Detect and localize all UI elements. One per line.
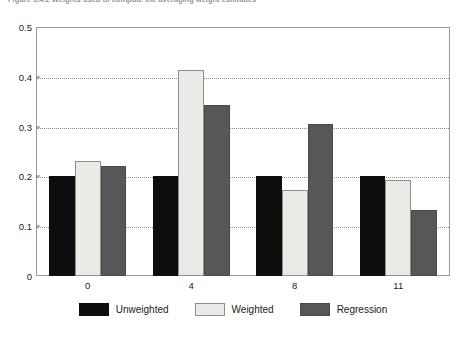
legend-item-regression[interactable]: Regression bbox=[300, 303, 388, 316]
x-tick-label: 4 bbox=[189, 280, 194, 291]
x-tick-label: 0 bbox=[85, 280, 90, 291]
legend-item-unweighted[interactable]: Unweighted bbox=[79, 303, 169, 316]
bar-regression-8 bbox=[308, 124, 334, 276]
bar-weighted-0 bbox=[75, 161, 101, 276]
bar-chart-figure: 00.10.20.30.40.5 04811 UnweightedWeighte… bbox=[0, 0, 466, 337]
y-tick-mark bbox=[36, 76, 40, 77]
y-tick-label: 0.2 bbox=[19, 171, 32, 182]
x-axis: 04811 bbox=[36, 280, 450, 296]
legend-swatch-weighted bbox=[195, 303, 225, 316]
chart-legend: UnweightedWeightedRegression bbox=[0, 303, 466, 316]
bar-regression-11 bbox=[411, 210, 437, 276]
legend-label: Unweighted bbox=[116, 304, 169, 315]
bar-unweighted-8 bbox=[256, 176, 282, 276]
y-tick-label: 0.3 bbox=[19, 121, 32, 132]
legend-label: Weighted bbox=[232, 304, 274, 315]
y-tick-mark bbox=[36, 126, 40, 127]
y-tick-mark bbox=[36, 176, 40, 177]
bar-weighted-8 bbox=[282, 190, 308, 276]
bars-layer bbox=[36, 27, 450, 276]
legend-swatch-regression bbox=[300, 303, 330, 316]
legend-item-weighted[interactable]: Weighted bbox=[195, 303, 274, 316]
bar-unweighted-0 bbox=[49, 176, 75, 276]
legend-swatch-unweighted bbox=[79, 303, 109, 316]
y-tick-label: 0.5 bbox=[19, 22, 32, 33]
y-axis: 00.10.20.30.40.5 bbox=[0, 27, 32, 276]
legend-label: Regression bbox=[337, 304, 388, 315]
y-tick-mark bbox=[36, 226, 40, 227]
y-tick-label: 0 bbox=[27, 271, 32, 282]
y-tick-label: 0.4 bbox=[19, 71, 32, 82]
x-tick-label: 11 bbox=[393, 280, 403, 291]
bar-weighted-11 bbox=[385, 180, 411, 276]
y-tick-label: 0.1 bbox=[19, 221, 32, 232]
bar-unweighted-4 bbox=[153, 176, 179, 276]
bar-unweighted-11 bbox=[360, 176, 386, 276]
x-tick-label: 8 bbox=[292, 280, 297, 291]
bar-regression-4 bbox=[204, 105, 230, 276]
bar-weighted-4 bbox=[178, 70, 204, 276]
bar-regression-0 bbox=[101, 166, 127, 276]
